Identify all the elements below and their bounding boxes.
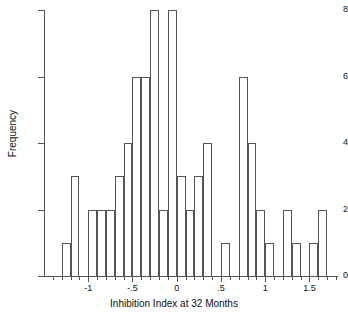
histogram-bar: [115, 176, 124, 276]
x-axis-minor-tick: [256, 277, 257, 280]
histogram-bar: [106, 210, 115, 277]
y-axis-title: Frequency: [7, 74, 18, 194]
x-axis-minor-tick: [124, 277, 125, 280]
x-axis-minor-tick: [318, 277, 319, 280]
x-axis-tick-label: -1: [73, 283, 103, 293]
histogram-bar: [97, 210, 106, 277]
histogram-bar: [203, 143, 212, 276]
x-axis-minor-tick: [327, 277, 328, 280]
x-axis-major-tick: [177, 277, 178, 282]
x-axis-major-tick: [88, 277, 89, 282]
x-axis-minor-tick: [239, 277, 240, 280]
x-axis-minor-tick: [203, 277, 204, 280]
histogram-bar: [239, 77, 248, 277]
x-axis-minor-tick: [159, 277, 160, 280]
x-axis-minor-tick: [274, 277, 275, 280]
x-axis-tick-label: 1: [250, 283, 280, 293]
histogram-figure: 02468 -1-.50.511.5 Inhibition Index at 3…: [0, 0, 348, 318]
histogram-bar: [150, 10, 159, 276]
x-axis-minor-tick: [301, 277, 302, 280]
x-axis-tick-label: .5: [206, 283, 236, 293]
x-axis-minor-tick: [186, 277, 187, 280]
x-axis-minor-tick: [248, 277, 249, 280]
histogram-bar: [159, 210, 168, 277]
histogram-bar: [124, 143, 133, 276]
x-axis-title: Inhibition Index at 32 Months: [0, 298, 348, 309]
histogram-bar: [221, 243, 230, 276]
x-axis-minor-tick: [62, 277, 63, 280]
x-axis-tick-label: -.5: [117, 283, 147, 293]
x-axis-minor-tick: [53, 277, 54, 280]
histogram-bar: [318, 210, 327, 277]
histogram-bar: [186, 210, 195, 277]
x-axis-major-tick: [265, 277, 266, 282]
x-axis-major-tick: [132, 277, 133, 282]
x-axis-minor-tick: [283, 277, 284, 280]
y-axis-tick: [38, 276, 44, 277]
histogram-bar: [309, 243, 318, 276]
x-axis-minor-tick: [336, 277, 337, 280]
x-axis-tick-label: 0: [162, 283, 192, 293]
x-axis-minor-tick: [97, 277, 98, 280]
histogram-bar: [71, 176, 80, 276]
histogram-bar: [168, 10, 177, 276]
histogram-bar: [88, 210, 97, 277]
histogram-bar: [292, 243, 301, 276]
histogram-bar: [62, 243, 71, 276]
x-axis-tick-label: 1.5: [294, 283, 324, 293]
x-axis-major-tick: [221, 277, 222, 282]
histogram-bar: [283, 210, 292, 277]
x-axis-minor-tick: [212, 277, 213, 280]
x-axis-minor-tick: [115, 277, 116, 280]
x-axis-minor-tick: [168, 277, 169, 280]
x-axis-minor-tick: [150, 277, 151, 280]
histogram-bar: [141, 77, 150, 277]
x-axis-minor-tick: [141, 277, 142, 280]
histogram-bar: [194, 176, 203, 276]
plot-area: [44, 10, 336, 276]
x-axis-minor-tick: [194, 277, 195, 280]
x-axis-minor-tick: [106, 277, 107, 280]
histogram-bar: [132, 77, 141, 277]
x-axis-minor-tick: [71, 277, 72, 280]
x-axis-minor-tick: [230, 277, 231, 280]
x-axis-major-tick: [309, 277, 310, 282]
histogram-bar: [265, 243, 274, 276]
histogram-bar: [256, 210, 265, 277]
x-axis-minor-tick: [292, 277, 293, 280]
histogram-bar: [177, 176, 186, 276]
x-axis-minor-tick: [79, 277, 80, 280]
histogram-bar: [248, 143, 257, 276]
